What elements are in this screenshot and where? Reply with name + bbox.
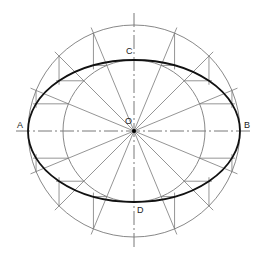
label-o: O [125, 116, 132, 126]
label-a: A [17, 120, 23, 130]
radial-line [134, 131, 213, 210]
label-b: B [244, 120, 250, 130]
center-point-o [132, 129, 136, 133]
radial-line [55, 52, 134, 131]
label-d: D [137, 205, 144, 215]
ellipse-construction-diagram: A B C D O [0, 0, 268, 266]
label-c: C [126, 46, 133, 56]
radial-line [134, 52, 213, 131]
radial-line [55, 131, 134, 210]
